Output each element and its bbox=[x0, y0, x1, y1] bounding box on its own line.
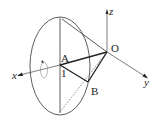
x-axis-arrow-icon bbox=[17, 73, 23, 77]
label-one: 1 bbox=[61, 67, 67, 79]
cone-diagram: A 1 B O x y z bbox=[0, 0, 161, 125]
y-axis bbox=[107, 52, 146, 77]
label-y-axis: y bbox=[143, 76, 149, 88]
label-A: A bbox=[61, 52, 69, 64]
label-B: B bbox=[91, 85, 98, 97]
label-O: O bbox=[111, 42, 119, 54]
x-axis bbox=[20, 65, 60, 75]
rotation-arrow-icon bbox=[41, 62, 48, 78]
cone-generator-top bbox=[62, 19, 107, 52]
label-z-axis: z bbox=[108, 5, 114, 17]
label-x-axis: x bbox=[11, 69, 17, 81]
